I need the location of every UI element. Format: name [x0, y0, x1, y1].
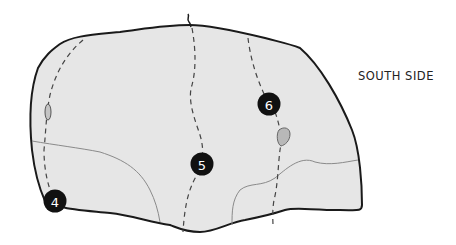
boulder-topo-diagram: 4 5 6 [0, 0, 456, 245]
hold-route-4 [45, 104, 51, 120]
svg-text:6: 6 [265, 98, 273, 113]
side-label: SOUTH SIDE [358, 69, 434, 83]
boulder-outline [30, 25, 362, 232]
route-marker-4[interactable]: 4 [44, 190, 67, 213]
route-marker-6[interactable]: 6 [258, 93, 281, 116]
route-marker-5[interactable]: 5 [191, 153, 214, 176]
svg-text:5: 5 [198, 158, 206, 173]
svg-text:4: 4 [51, 195, 59, 210]
